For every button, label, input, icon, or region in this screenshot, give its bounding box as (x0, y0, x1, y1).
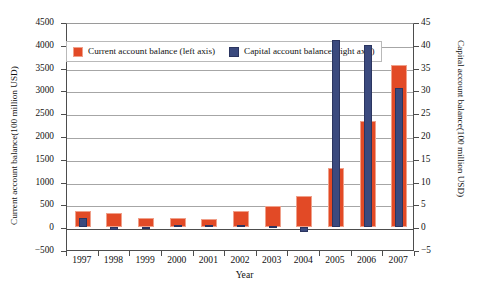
gridline (67, 115, 413, 116)
x-axis-label: 1998 (98, 255, 130, 265)
y-axis-tick-right (414, 137, 419, 138)
y-axis-label-right: 5 (421, 200, 451, 209)
y-axis-label-left: 4500 (0, 18, 54, 27)
y-axis-label-right: 25 (421, 109, 451, 118)
y-axis-tick-right (414, 160, 419, 161)
bar-current-account (296, 196, 312, 227)
x-axis-label: 2000 (161, 255, 193, 265)
x-axis-label: 1999 (129, 255, 161, 265)
x-axis-label: 2006 (351, 255, 383, 265)
y-axis-label-left: 2000 (0, 132, 54, 141)
x-axis-label: 1997 (66, 255, 98, 265)
chart-container: Current account balance(100 million USD)… (0, 0, 489, 285)
x-axis-label: 2007 (382, 255, 414, 265)
y-axis-label-right: 10 (421, 178, 451, 187)
bar-capital-account (364, 45, 372, 227)
bar-current-account (138, 218, 154, 228)
x-axis-title: Year (0, 269, 489, 280)
x-axis-label: 2002 (224, 255, 256, 265)
bar-capital-account (300, 227, 308, 232)
x-axis-label: 2003 (256, 255, 288, 265)
gridline (67, 70, 413, 71)
legend-item-current-account: Current account balance (left axis) (73, 47, 215, 57)
red-swatch-icon (73, 47, 83, 57)
y-axis-label-right: 20 (421, 132, 451, 141)
y-axis-label-right: 40 (421, 41, 451, 50)
bar-capital-account (269, 226, 277, 228)
y-axis-label-left: 4000 (0, 41, 54, 50)
bar-current-account (265, 206, 281, 227)
bar-capital-account (142, 227, 150, 229)
y-axis-label-left: 0 (0, 223, 54, 232)
y-axis-label-right: 30 (421, 86, 451, 95)
y-axis-tick-right (414, 228, 419, 229)
y-axis-tick-right (414, 69, 419, 70)
gridline (67, 92, 413, 93)
bar-capital-account (174, 225, 182, 227)
y-axis-label-right: 15 (421, 155, 451, 164)
bar-capital-account (110, 227, 118, 230)
y-axis-tick-right (414, 23, 419, 24)
y-axis-tick-right (414, 46, 419, 47)
x-axis-label: 2001 (193, 255, 225, 265)
y-axis-tick-right (414, 205, 419, 206)
y-axis-tick-right (414, 183, 419, 184)
y-axis-label-left: 3500 (0, 64, 54, 73)
y-axis-label-left: 1000 (0, 178, 54, 187)
legend-item-capital-account: Capital account balance (right axis) (229, 47, 375, 57)
legend-label-capital-account: Capital account balance (right axis) (244, 47, 375, 56)
bar-capital-account (79, 218, 87, 228)
y-axis-label-right: 45 (421, 18, 451, 27)
bar-capital-account (205, 225, 213, 227)
x-axis-tick (414, 251, 415, 256)
bar-capital-account (332, 40, 340, 227)
bar-capital-account (237, 225, 245, 227)
y-axis-label-left: 1500 (0, 155, 54, 164)
y-axis-tick-right (414, 114, 419, 115)
zero-line (67, 229, 413, 230)
y-axis-tick-right (414, 91, 419, 92)
y-axis-label-left: 3000 (0, 86, 54, 95)
x-axis-label: 2005 (319, 255, 351, 265)
x-axis-label: 2004 (287, 255, 319, 265)
y-axis-label-right: 35 (421, 64, 451, 73)
legend-label-current-account: Current account balance (left axis) (88, 47, 215, 56)
bar-current-account (106, 213, 122, 227)
bar-capital-account (395, 88, 403, 228)
y-axis-label-left: 500 (0, 200, 54, 209)
y-axis-label-left: −500 (0, 246, 54, 255)
y-axis-label-right: 0 (421, 223, 451, 232)
y-axis-label-right: −5 (421, 246, 451, 255)
blue-swatch-icon (229, 47, 239, 57)
y-axis-label-left: 2500 (0, 109, 54, 118)
y-axis-title-right: Capital account balance(100 million USD) (456, 40, 466, 197)
